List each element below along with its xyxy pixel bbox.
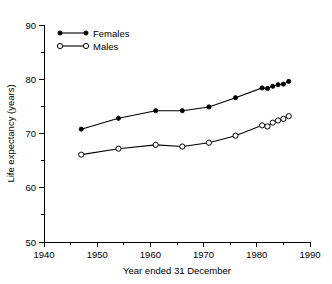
- data-point-males: [275, 118, 280, 123]
- series-line-males: [81, 116, 288, 155]
- legend-marker: [84, 31, 88, 35]
- y-tick-label: 80: [25, 74, 36, 85]
- legend-marker: [57, 43, 62, 48]
- legend-item-females[interactable]: Females: [58, 28, 130, 39]
- data-point-females: [154, 109, 158, 113]
- data-point-males: [260, 123, 265, 128]
- data-point-males: [281, 116, 286, 121]
- data-point-females: [233, 96, 237, 100]
- data-point-females: [276, 83, 280, 87]
- legend-label: Females: [93, 28, 130, 39]
- data-point-males: [116, 146, 121, 151]
- x-tick-label: 1960: [140, 249, 161, 260]
- data-point-females: [260, 86, 264, 90]
- data-point-males: [206, 140, 211, 145]
- y-tick-label: 70: [25, 128, 36, 139]
- data-point-females: [207, 105, 211, 109]
- data-point-males: [153, 142, 158, 147]
- life-expectancy-chart: 5060708090194019501960197019801990Year e…: [0, 0, 332, 284]
- legend-marker: [58, 31, 62, 35]
- data-point-females: [180, 109, 184, 113]
- legend-item-males[interactable]: Males: [57, 41, 118, 52]
- x-tick-label: 1980: [246, 249, 267, 260]
- y-axis-title: Life expectancy (years): [5, 84, 16, 182]
- y-tick-label: 90: [25, 20, 36, 31]
- x-tick-label: 1950: [87, 249, 108, 260]
- x-tick-label: 1940: [33, 249, 54, 260]
- data-point-females: [79, 127, 83, 131]
- chart-plot-area: 5060708090194019501960197019801990Year e…: [0, 0, 332, 284]
- data-point-females: [271, 84, 275, 88]
- data-point-females: [281, 82, 285, 86]
- data-point-males: [79, 152, 84, 157]
- x-tick-label: 1990: [299, 249, 320, 260]
- data-point-males: [233, 133, 238, 138]
- x-tick-label: 1970: [193, 249, 214, 260]
- data-point-males: [286, 114, 291, 119]
- y-tick-label: 60: [25, 182, 36, 193]
- x-axis-title: Year ended 31 December: [123, 265, 231, 276]
- legend-label: Males: [93, 41, 119, 52]
- data-point-males: [265, 124, 270, 129]
- data-point-males: [180, 144, 185, 149]
- data-point-females: [287, 79, 291, 83]
- data-point-females: [265, 86, 269, 90]
- y-tick-label: 50: [25, 237, 36, 248]
- legend-marker: [83, 43, 88, 48]
- data-point-females: [116, 116, 120, 120]
- data-point-males: [270, 120, 275, 125]
- series-line-females: [81, 81, 288, 129]
